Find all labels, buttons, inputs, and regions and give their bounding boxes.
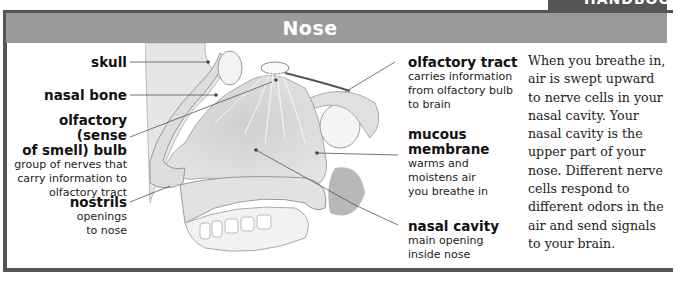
label-olfactory-bulb-name-2: of smell) bulb: [5, 143, 127, 158]
label-nasal-bone: nasal bone: [10, 88, 127, 103]
label-olfactory-tract-desc-3: to brain: [408, 98, 528, 112]
label-olfactory-bulb-name-1: olfactory (sense: [5, 113, 127, 143]
label-nasal-cavity: nasal cavity main opening inside nose: [408, 219, 528, 262]
label-nasal-cavity-desc-1: main opening: [408, 234, 528, 248]
label-olfactory-bulb-desc-1: group of nerves that: [5, 158, 127, 172]
label-skull-name: skull: [10, 55, 127, 70]
label-mucous-membrane: mucous membrane warms and moistens air y…: [408, 127, 528, 199]
label-olfactory-bulb-desc-2: carry information to: [5, 172, 127, 186]
label-skull: skull: [10, 55, 127, 70]
label-olfactory-tract-name: olfactory tract: [408, 55, 528, 70]
label-nostrils: nostrils openings to nose: [10, 195, 127, 238]
label-mucous-membrane-desc-1: warms and: [408, 157, 528, 171]
body-paragraph: When you breathe in, air is swept upward…: [528, 52, 668, 253]
label-nostrils-desc-2: to nose: [10, 224, 127, 238]
label-nostrils-desc-1: openings: [10, 210, 127, 224]
label-mucous-membrane-name-2: membrane: [408, 142, 528, 157]
label-nasal-cavity-desc-2: inside nose: [408, 248, 528, 262]
label-olfactory-tract-desc-1: carries information: [408, 70, 528, 84]
label-mucous-membrane-desc-3: you breathe in: [408, 185, 528, 199]
label-olfactory-bulb: olfactory (sense of smell) bulb group of…: [5, 113, 127, 200]
label-mucous-membrane-name-1: mucous: [408, 127, 528, 142]
label-mucous-membrane-desc-2: moistens air: [408, 171, 528, 185]
label-nasal-cavity-name: nasal cavity: [408, 219, 528, 234]
label-nasal-bone-name: nasal bone: [10, 88, 127, 103]
label-olfactory-tract-desc-2: from olfactory bulb: [408, 84, 528, 98]
label-nostrils-name: nostrils: [10, 195, 127, 210]
label-olfactory-tract: olfactory tract carries information from…: [408, 55, 528, 112]
